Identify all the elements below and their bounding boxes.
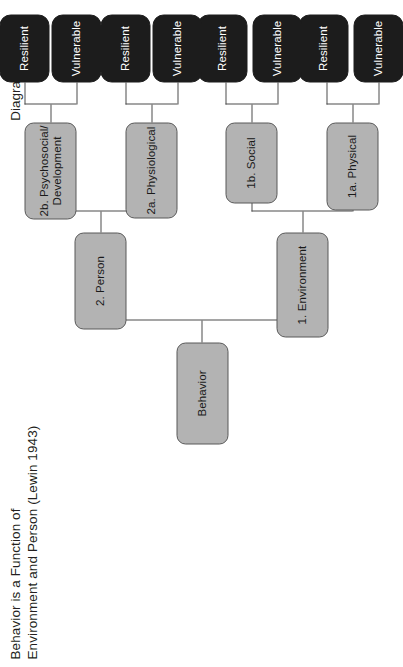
page-title: Behavior is a Function of Environment an…: [6, 425, 40, 659]
node-physiological[interactable]: 2a. Physiological: [125, 122, 177, 218]
connector-person-stub: [100, 211, 101, 232]
connector-physiological-stub: [151, 104, 152, 122]
leaf-social-vulnerable[interactable]: Vulnerable: [252, 14, 302, 82]
connector-physical-bus: [326, 103, 378, 104]
connector-social-bus: [225, 103, 277, 104]
connector-social-to-resilient: [225, 82, 226, 104]
connector-environment-stub: [302, 211, 303, 232]
connector-root-bus: [100, 319, 302, 320]
node-person[interactable]: 2. Person: [74, 232, 126, 329]
leaf-physical-vulnerable[interactable]: Vulnerable: [353, 14, 403, 82]
connector-psychosocial-to-resilient: [24, 82, 25, 104]
connector-root-stub: [201, 320, 202, 342]
leaf-physical-resilient[interactable]: Resilient: [298, 14, 348, 82]
node-physical[interactable]: 1a. Physical: [326, 122, 378, 210]
node-psychosocial-development[interactable]: 2b. Psychosocial/ Development: [24, 122, 76, 219]
connector-social-to-vulnerable: [277, 82, 278, 104]
connector-physical-stub: [352, 104, 353, 122]
connector-physiological-to-vulnerable: [177, 82, 178, 104]
connector-physiological-to-resilient: [125, 82, 126, 104]
leaf-physiological-vulnerable[interactable]: Vulnerable: [152, 14, 202, 82]
connector-psychosocial-to-vulnerable: [76, 82, 77, 104]
connector-psychosocial-bus: [24, 103, 76, 104]
leaf-physiological-resilient[interactable]: Resilient: [100, 14, 150, 82]
node-environment[interactable]: 1. Environment: [276, 232, 328, 337]
leaf-psychosocial-vulnerable[interactable]: Vulnerable: [51, 14, 101, 82]
connector-physiological-bus: [125, 103, 177, 104]
node-social[interactable]: 1b. Social: [225, 122, 277, 203]
diagram-canvas: Behavior is a Function of Environment an…: [0, 0, 403, 667]
connector-psychosocial-stub: [50, 104, 51, 122]
connector-physical-to-resilient: [326, 82, 327, 104]
connector-social-stub: [251, 104, 252, 122]
connector-physical-to-vulnerable: [378, 82, 379, 104]
leaf-psychosocial-resilient[interactable]: Resilient: [0, 14, 49, 82]
leaf-social-resilient[interactable]: Resilient: [197, 14, 247, 82]
node-behavior[interactable]: Behavior: [176, 342, 228, 444]
